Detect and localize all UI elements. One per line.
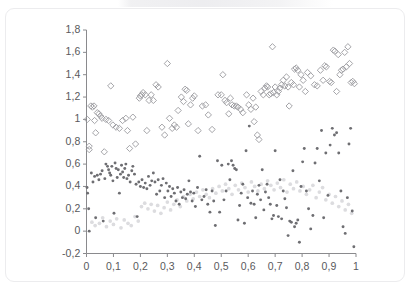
data-point [199,103,205,109]
data-point [263,187,267,191]
data-point [155,84,161,90]
y-tick-label-3: 0,4 [66,179,81,191]
data-point [139,185,142,188]
data-point [237,188,241,192]
data-point [220,72,226,78]
data-point [178,203,181,206]
data-point [226,111,232,117]
data-point [342,49,348,55]
data-point [270,217,273,220]
data-point [202,102,208,108]
y-tick-label-6: 1 [75,112,81,124]
data-point [296,219,299,222]
data-point [246,196,249,199]
data-point [295,180,299,184]
data-point [283,197,286,200]
data-point [142,186,145,189]
data-point [330,201,334,205]
data-point [101,216,105,220]
data-point [337,151,340,154]
data-point [166,115,172,121]
x-tick-label-7: 0,7 [261,260,289,272]
data-point [302,88,308,94]
data-point [318,179,321,182]
data-point [249,202,252,205]
data-point [132,141,138,147]
data-point [97,178,100,181]
y-tick-label-4: 0,6 [66,157,81,169]
data-point [253,203,256,206]
data-point [133,173,136,176]
data-point [243,186,247,190]
y-tick-label-5: 0,8 [66,135,81,147]
data-point [135,183,138,186]
data-point [111,179,114,182]
data-point [250,180,254,184]
data-point [211,189,214,192]
data-point [321,186,325,190]
data-point [205,112,211,118]
data-point [300,185,303,188]
data-point [93,224,97,228]
data-point [126,221,130,225]
data-point [140,205,144,209]
data-point [346,60,352,66]
data-point [233,183,237,187]
data-point [90,220,94,224]
data-point [285,190,289,194]
data-point [308,73,314,79]
data-point [176,186,179,189]
x-tick-label-1: 0,1 [99,260,127,272]
data-point [251,118,257,124]
data-point [237,219,240,222]
data-point [153,209,157,213]
data-point [287,234,290,237]
data-point [129,181,132,184]
data-point [124,127,130,133]
scatter-plot[interactable] [0,0,411,287]
x-tick-label-6: 0,6 [234,260,262,272]
data-point [130,169,133,172]
data-point [286,103,292,109]
data-point [179,191,182,194]
data-point [195,127,201,133]
data-point [116,176,119,179]
data-point [335,131,338,134]
data-point [304,69,310,75]
series-upper-band [84,44,357,155]
data-point [198,155,201,158]
data-point [165,200,169,204]
data-point [267,196,270,199]
data-point [178,94,184,100]
data-point [117,168,120,171]
data-point [103,177,106,180]
data-point [162,177,165,180]
data-point [105,225,109,229]
data-point [94,216,97,219]
data-point [119,226,123,230]
data-point [127,174,130,177]
data-point [113,212,116,215]
data-point [108,83,114,89]
x-tick-label-2: 0,2 [126,260,154,272]
data-point [227,163,230,166]
data-point [137,181,140,184]
y-axis-ticks [83,30,87,254]
data-point [187,102,193,108]
data-point [170,195,173,198]
data-point [232,164,235,167]
data-point [298,241,301,244]
data-point [320,77,326,83]
data-point [118,192,121,195]
data-point [266,183,269,186]
data-point [175,107,181,113]
data-point [159,124,165,130]
data-point [143,201,147,205]
data-point [191,200,194,203]
data-point [119,173,122,176]
data-point [344,232,347,235]
data-point [147,175,150,178]
data-point [157,178,160,181]
y-tick-label-9: 1,6 [66,45,81,57]
data-point [131,165,134,168]
